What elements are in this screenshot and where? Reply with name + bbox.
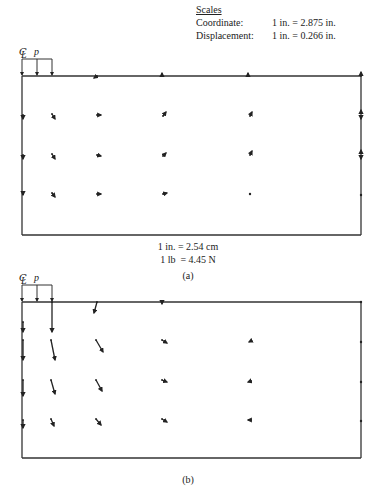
displacement-vectors [22, 301, 362, 428]
displacement-vector [96, 340, 103, 352]
load-label: p [33, 272, 39, 283]
distributed-load [22, 285, 52, 301]
displacement-vector [96, 419, 101, 425]
displacement-point [360, 420, 362, 422]
caption-b: (b) [0, 474, 376, 485]
displacement-point [360, 381, 362, 383]
slab-outline [22, 302, 361, 458]
panel-b-diagram: ⅭLp [0, 0, 376, 470]
displacement-point [360, 341, 362, 343]
displacement-vector [51, 419, 54, 426]
displacement-point [360, 301, 362, 303]
displacement-vector [51, 380, 55, 394]
displacement-vector [51, 340, 55, 360]
displacement-vector [94, 302, 97, 313]
displacement-vector [96, 380, 102, 391]
centerline-sub: L [20, 275, 27, 286]
